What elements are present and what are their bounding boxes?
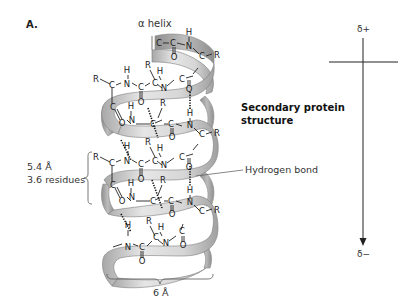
svg-text:N: N	[129, 115, 135, 125]
svg-text:C: C	[199, 129, 205, 139]
dipole-positive-label: δ+	[357, 25, 370, 34]
svg-text:O: O	[138, 174, 145, 184]
structure-title-line2: structure	[241, 116, 293, 126]
svg-text:H: H	[158, 222, 164, 232]
rise-length-label: 5.4 Å	[27, 162, 52, 172]
svg-text:C: C	[138, 159, 144, 169]
svg-text:C: C	[152, 156, 158, 166]
helix-title: α helix	[138, 19, 172, 29]
svg-text:C: C	[110, 102, 116, 112]
panel-label: A.	[26, 20, 38, 30]
svg-text:C: C	[168, 119, 174, 129]
svg-text:O: O	[186, 162, 193, 172]
svg-text:O: O	[169, 209, 176, 219]
svg-text:C: C	[199, 206, 205, 216]
svg-text:C: C	[109, 158, 115, 168]
svg-text:R: R	[160, 175, 166, 185]
svg-text:C: C	[156, 38, 162, 48]
svg-text:N: N	[124, 79, 130, 89]
svg-text:R: R	[160, 98, 166, 108]
svg-text:O: O	[171, 52, 178, 62]
svg-text:O: O	[119, 196, 126, 206]
svg-text:N: N	[187, 120, 193, 130]
svg-text:C: C	[179, 226, 185, 236]
svg-text:C: C	[150, 196, 156, 206]
svg-text:N: N	[186, 41, 192, 51]
svg-text:R: R	[93, 152, 99, 162]
helix-illustration: CCO HNC R RCH NCO RCH NCO CO HN RC CO HN…	[0, 0, 420, 305]
svg-text:C: C	[150, 119, 156, 129]
svg-text:H: H	[157, 66, 163, 76]
hydrogen-bond-label: Hydrogen bond	[245, 165, 318, 175]
svg-text:N: N	[125, 242, 131, 252]
svg-text:C: C	[110, 180, 116, 190]
svg-text:O: O	[119, 118, 126, 128]
svg-text:R: R	[145, 137, 151, 147]
svg-text:O: O	[139, 256, 146, 266]
svg-text:H: H	[124, 141, 130, 151]
svg-text:H: H	[186, 27, 192, 37]
svg-text:C: C	[199, 51, 205, 61]
svg-text:O: O	[138, 97, 145, 107]
svg-text:C: C	[168, 196, 174, 206]
svg-text:N: N	[161, 160, 167, 170]
svg-text:R: R	[214, 205, 220, 215]
rise-brace	[84, 152, 92, 204]
rise-residues-label: 3.6 residues	[27, 175, 85, 185]
svg-text:C: C	[139, 242, 145, 252]
svg-text:R: R	[145, 60, 151, 70]
svg-text:C: C	[152, 78, 158, 88]
svg-text:O: O	[186, 84, 193, 94]
svg-text:N: N	[187, 197, 193, 207]
structure-title-line1: Secondary protein	[241, 103, 345, 113]
svg-text:O: O	[169, 132, 176, 142]
svg-text:C: C	[170, 38, 176, 48]
width-label: 6 Å	[153, 288, 169, 298]
svg-text:C: C	[179, 152, 185, 162]
svg-text:H: H	[157, 143, 163, 153]
svg-text:R: R	[214, 128, 220, 138]
svg-text:H: H	[128, 178, 134, 188]
svg-text:C: C	[179, 74, 185, 84]
svg-text:C: C	[153, 232, 159, 242]
svg-text:R: R	[146, 216, 152, 226]
svg-text:N: N	[129, 192, 135, 202]
alpha-helix-diagram: CCO HNC R RCH NCO RCH NCO CO HN RC CO HN…	[0, 0, 420, 305]
svg-text:H: H	[124, 65, 130, 75]
svg-text:H: H	[125, 220, 131, 230]
svg-text:C: C	[109, 80, 115, 90]
svg-text:N: N	[163, 238, 169, 248]
svg-text:H: H	[187, 108, 193, 118]
svg-text:H: H	[187, 185, 193, 195]
dipole-axis	[329, 38, 398, 246]
svg-text:C: C	[138, 82, 144, 92]
dipole-negative-label: δ−	[357, 250, 370, 259]
svg-text:O: O	[180, 240, 187, 250]
svg-text:R: R	[214, 50, 220, 60]
svg-text:N: N	[124, 156, 130, 166]
svg-text:N: N	[161, 83, 167, 93]
svg-text:H: H	[128, 101, 134, 111]
svg-text:R: R	[93, 74, 99, 84]
